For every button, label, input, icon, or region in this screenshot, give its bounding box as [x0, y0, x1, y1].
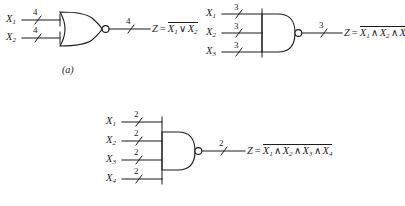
- bus-width-label-x2: 3: [234, 21, 239, 31]
- equation-lhs: Z: [152, 23, 158, 34]
- bus-width-label-x4: 2: [134, 166, 139, 176]
- equation-lhs: Z: [344, 27, 350, 38]
- panel-a-nor-gate: X1 X2 4 4 4 Z=X1∨X2 (a): [0, 2, 200, 84]
- bus-width-label-output: 3: [319, 20, 324, 30]
- bus-width-label-x1: 3: [234, 2, 239, 12]
- or-gate-body: [60, 12, 102, 46]
- output-equation-a: Z=X1∨X2: [152, 22, 198, 35]
- and-gate-body: [162, 132, 195, 170]
- bus-width-label-x3: 2: [134, 147, 139, 157]
- input-label-x4: X4: [106, 173, 116, 184]
- panel-c-nand-gate: X1 X2 X3 X4 2 2 2 2 2 Z=X1∧X2∧X3∧X4 (c): [100, 104, 405, 202]
- and-gate-body: [262, 14, 295, 52]
- nand-gate-schematic-b: [200, 2, 405, 84]
- panel-b-nand-gate: X1 X2 X3 3 3 3 3 Z=X1∧X2∧X3 (b): [200, 2, 405, 84]
- equation-rhs-overbar: X1∨X2: [168, 22, 198, 35]
- inversion-bubble: [102, 26, 109, 33]
- output-equation-b: Z=X1∧X2∧X3: [344, 26, 405, 39]
- bus-width-label-output: 2: [219, 138, 224, 148]
- bus-width-label-x2: 2: [134, 128, 139, 138]
- bus-width-label-x3: 3: [234, 40, 239, 50]
- inversion-bubble: [295, 30, 302, 37]
- input-label-x1: X1: [6, 14, 16, 25]
- nor-gate-schematic-a: [0, 2, 200, 84]
- equation-rhs-overbar: X1∧X2∧X3∧X4: [263, 144, 333, 157]
- input-label-x1: X1: [206, 8, 216, 19]
- bus-width-label-output: 4: [126, 16, 131, 26]
- panel-caption-a: (a): [62, 64, 74, 75]
- equation-equals: =: [253, 145, 263, 156]
- input-label-x2: X2: [6, 32, 16, 43]
- equation-lhs: Z: [247, 145, 253, 156]
- bus-width-label-x1: 2: [134, 109, 139, 119]
- input-label-x3: X3: [206, 46, 216, 57]
- input-label-x2: X2: [106, 135, 116, 146]
- equation-equals: =: [158, 23, 168, 34]
- input-label-x3: X3: [106, 154, 116, 165]
- input-label-x1: X1: [106, 116, 116, 127]
- bus-width-label-x2: 4: [33, 25, 38, 35]
- logic-gate-figure: X1 X2 4 4 4 Z=X1∨X2 (a): [0, 0, 405, 206]
- equation-equals: =: [350, 27, 360, 38]
- inversion-bubble: [195, 148, 202, 155]
- input-label-x2: X2: [206, 27, 216, 38]
- bus-width-label-x1: 4: [33, 7, 38, 17]
- equation-rhs-overbar: X1∧X2∧X3: [360, 26, 405, 39]
- output-equation-c: Z=X1∧X2∧X3∧X4: [247, 144, 332, 157]
